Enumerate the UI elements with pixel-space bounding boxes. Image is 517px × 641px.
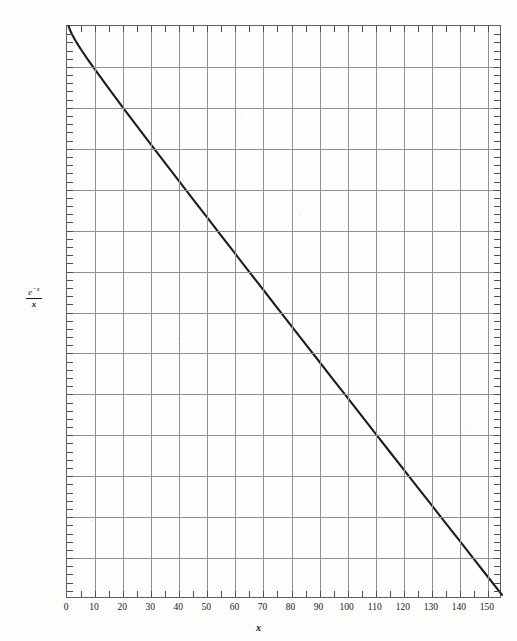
y-axis-tick (494, 558, 500, 559)
y-axis-tick (67, 263, 73, 264)
y-axis-tick (67, 222, 73, 223)
x-axis-tick (277, 26, 278, 32)
y-axis-tick (67, 452, 73, 453)
x-axis-tick (249, 26, 250, 32)
x-tick-label: 150 (467, 603, 507, 613)
x-axis-tick (418, 591, 419, 597)
y-axis-tick (67, 190, 73, 191)
y-axis-tick (67, 378, 73, 379)
x-axis-tick (488, 591, 489, 597)
y-axis-tick (67, 591, 73, 592)
x-axis-tick (474, 591, 475, 597)
y-axis-tick (67, 59, 73, 60)
x-axis-tick (446, 591, 447, 597)
y-axis-tick (494, 443, 500, 444)
y-axis-tick (67, 542, 73, 543)
y-axis-tick (494, 313, 500, 314)
y-axis-tick (67, 173, 73, 174)
grid-line-vertical (179, 26, 180, 597)
y-axis-tick (494, 509, 500, 510)
y-axis-tick (67, 419, 73, 420)
grid-line-horizontal (67, 231, 500, 232)
x-axis-tick (179, 26, 180, 32)
x-axis-tick (165, 591, 166, 597)
x-axis-tick (474, 26, 475, 32)
y-axis-tick (67, 484, 73, 485)
y-axis-tick (67, 182, 73, 183)
x-axis-tick (235, 591, 236, 597)
x-axis-tick (460, 591, 461, 597)
y-axis-tick (494, 534, 500, 535)
y-axis-tick (494, 296, 500, 297)
y-axis-tick (494, 493, 500, 494)
x-axis-tick (488, 26, 489, 32)
y-axis-tick (494, 198, 500, 199)
x-axis-tick (418, 26, 419, 32)
grid-line-horizontal (67, 190, 500, 191)
y-axis-tick (67, 574, 73, 575)
y-axis-tick (67, 272, 73, 273)
y-axis-tick (494, 370, 500, 371)
y-axis-tick (494, 435, 500, 436)
y-axis-tick (494, 353, 500, 354)
y-axis-tick (67, 362, 73, 363)
grid-line-vertical (348, 26, 349, 597)
y-axis-tick (494, 272, 500, 273)
y-axis-tick (494, 255, 500, 256)
y-axis-tick (494, 288, 500, 289)
y-axis-tick (494, 378, 500, 379)
x-axis-tick (390, 26, 391, 32)
y-axis-tick (494, 566, 500, 567)
y-axis-tick (67, 165, 73, 166)
y-axis-tick (67, 231, 73, 232)
grid-line-vertical (95, 26, 96, 597)
y-axis-tick (67, 468, 73, 469)
y-axis-tick (494, 67, 500, 68)
y-axis-tick (494, 157, 500, 158)
y-axis-tick (67, 558, 73, 559)
x-axis-tick (404, 26, 405, 32)
y-axis-tick (67, 132, 73, 133)
y-axis-tick (67, 411, 73, 412)
y-axis-tick (494, 517, 500, 518)
y-axis-tick (67, 108, 73, 109)
x-axis-tick (263, 591, 264, 597)
y-axis-tick (67, 460, 73, 461)
x-axis-tick (165, 26, 166, 32)
y-axis-tick (494, 75, 500, 76)
scan-speckle (343, 67, 344, 68)
x-axis-title: x (0, 622, 517, 633)
x-axis-tick (221, 591, 222, 597)
y-axis-tick (494, 427, 500, 428)
y-axis-tick (494, 59, 500, 60)
grid-line-vertical (207, 26, 208, 597)
y-axis-tick (67, 550, 73, 551)
grid-line-vertical (123, 26, 124, 597)
scan-speckle (299, 214, 300, 215)
x-axis-tick (151, 26, 152, 32)
grid-line-horizontal (67, 476, 500, 477)
grid-line-vertical (263, 26, 264, 597)
y-axis-tick (494, 403, 500, 404)
x-axis-tick (235, 26, 236, 32)
y-axis-tick (494, 304, 500, 305)
y-axis-tick (67, 157, 73, 158)
y-axis-tick (494, 132, 500, 133)
y-axis-tick (67, 116, 73, 117)
scan-speckle (397, 147, 398, 148)
y-axis-tick (67, 370, 73, 371)
y-axis-tick (67, 394, 73, 395)
x-axis-tick (334, 591, 335, 597)
y-axis-tick (67, 435, 73, 436)
y-axis-tick (494, 345, 500, 346)
x-axis-tick (362, 591, 363, 597)
y-axis-tick (494, 280, 500, 281)
y-axis-tick (67, 386, 73, 387)
x-axis-tick (306, 26, 307, 32)
y-axis-tick (494, 51, 500, 52)
x-axis-tick (123, 26, 124, 32)
scan-speckle (241, 117, 242, 118)
y-axis-tick (494, 42, 500, 43)
x-axis-tick (376, 26, 377, 32)
y-axis-tick (494, 182, 500, 183)
